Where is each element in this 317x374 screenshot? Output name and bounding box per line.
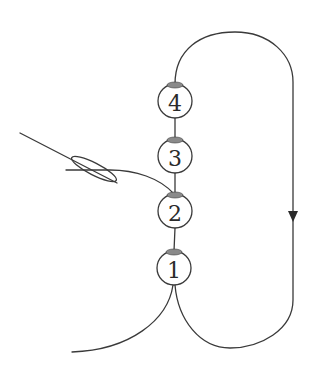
bead-hole-icon xyxy=(167,192,183,198)
direction-arrow-icon xyxy=(288,211,298,222)
bead-label: 2 xyxy=(168,201,182,226)
bead-diagram: 4 3 2 1 xyxy=(0,0,317,374)
bead-3: 3 xyxy=(158,137,192,173)
bead-1: 1 xyxy=(157,249,191,285)
bead-hole-icon xyxy=(166,249,182,255)
thread-through-needle xyxy=(66,170,174,194)
bead-4: 4 xyxy=(158,82,192,118)
bead-label: 4 xyxy=(168,91,182,116)
bead-label: 3 xyxy=(168,146,182,171)
bead-2: 2 xyxy=(158,192,192,228)
needle xyxy=(20,133,117,183)
bead-hole-icon xyxy=(167,137,183,143)
thread-segment-2-1 xyxy=(174,228,175,251)
bead-label: 1 xyxy=(167,258,181,283)
bead-hole-icon xyxy=(167,82,183,88)
thread-loop xyxy=(175,32,293,348)
thread-tail xyxy=(72,285,173,352)
